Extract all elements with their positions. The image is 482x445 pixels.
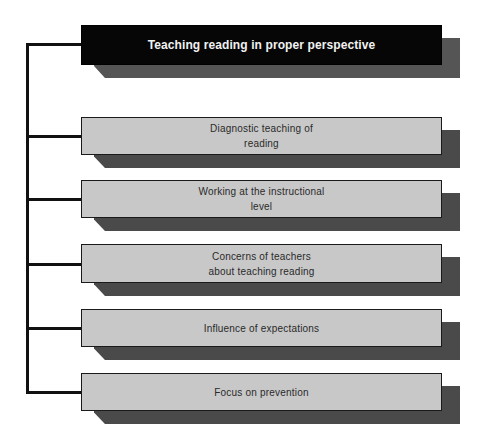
connector-trunk [26,43,29,394]
child-node-box: Focus on prevention [81,373,442,411]
child-node-box: Diagnostic teaching of reading [81,117,442,155]
connector-child-2 [26,198,82,201]
child-node-label: Working at the instructional level [198,184,324,214]
connector-child-1 [26,135,82,138]
child-node-box: Influence of expectations [81,309,442,347]
child-node-label: Focus on prevention [214,385,308,400]
root-node: Teaching reading in proper perspective [81,25,442,65]
connector-root [26,43,82,46]
child-node-4: Influence of expectations [81,309,442,347]
child-node-label: Influence of expectations [204,321,320,336]
child-node-box: Concerns of teachers about teaching read… [81,244,442,283]
child-node-5: Focus on prevention [81,373,442,411]
child-node-1: Diagnostic teaching of reading [81,117,442,155]
connector-child-4 [26,327,82,330]
root-node-box: Teaching reading in proper perspective [81,25,442,65]
child-node-2: Working at the instructional level [81,180,442,218]
child-node-label: Diagnostic teaching of reading [210,121,313,151]
child-node-3: Concerns of teachers about teaching read… [81,244,442,283]
child-node-label: Concerns of teachers about teaching read… [208,249,314,279]
connector-child-3 [26,263,82,266]
root-node-label: Teaching reading in proper perspective [148,38,376,53]
connector-child-5 [26,391,82,394]
child-node-box: Working at the instructional level [81,180,442,218]
